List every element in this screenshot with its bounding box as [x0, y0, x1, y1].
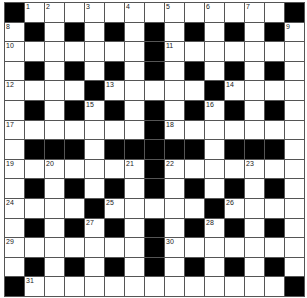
- white-cell[interactable]: [65, 199, 84, 218]
- white-cell[interactable]: [105, 160, 124, 179]
- white-cell[interactable]: [125, 42, 144, 61]
- white-cell[interactable]: [205, 238, 224, 257]
- white-cell[interactable]: [265, 81, 284, 100]
- white-cell[interactable]: 10: [5, 42, 24, 61]
- white-cell[interactable]: 7: [245, 3, 264, 22]
- white-cell[interactable]: [285, 140, 304, 159]
- white-cell[interactable]: 1: [25, 3, 44, 22]
- white-cell[interactable]: [65, 277, 84, 296]
- white-cell[interactable]: [25, 121, 44, 140]
- white-cell[interactable]: [245, 23, 264, 42]
- white-cell[interactable]: [145, 81, 164, 100]
- white-cell[interactable]: [105, 121, 124, 140]
- white-cell[interactable]: [245, 219, 264, 238]
- white-cell[interactable]: [265, 42, 284, 61]
- white-cell[interactable]: [205, 258, 224, 277]
- white-cell[interactable]: [5, 101, 24, 120]
- white-cell[interactable]: [45, 62, 64, 81]
- white-cell[interactable]: [285, 42, 304, 61]
- white-cell[interactable]: [285, 121, 304, 140]
- white-cell[interactable]: [285, 160, 304, 179]
- white-cell[interactable]: 9: [285, 23, 304, 42]
- white-cell[interactable]: [85, 179, 104, 198]
- white-cell[interactable]: 12: [5, 81, 24, 100]
- white-cell[interactable]: [205, 62, 224, 81]
- white-cell[interactable]: [5, 219, 24, 238]
- white-cell[interactable]: 26: [225, 199, 244, 218]
- white-cell[interactable]: [85, 160, 104, 179]
- white-cell[interactable]: [145, 277, 164, 296]
- white-cell[interactable]: [285, 199, 304, 218]
- white-cell[interactable]: [225, 121, 244, 140]
- white-cell[interactable]: [285, 258, 304, 277]
- white-cell[interactable]: [205, 42, 224, 61]
- white-cell[interactable]: [185, 42, 204, 61]
- white-cell[interactable]: [65, 81, 84, 100]
- white-cell[interactable]: [125, 23, 144, 42]
- white-cell[interactable]: [245, 81, 264, 100]
- white-cell[interactable]: [245, 101, 264, 120]
- white-cell[interactable]: [245, 277, 264, 296]
- white-cell[interactable]: [285, 101, 304, 120]
- white-cell[interactable]: [25, 199, 44, 218]
- white-cell[interactable]: [145, 3, 164, 22]
- white-cell[interactable]: [45, 101, 64, 120]
- white-cell[interactable]: [105, 277, 124, 296]
- white-cell[interactable]: [45, 42, 64, 61]
- white-cell[interactable]: [185, 160, 204, 179]
- white-cell[interactable]: [205, 140, 224, 159]
- white-cell[interactable]: 14: [225, 81, 244, 100]
- white-cell[interactable]: [185, 3, 204, 22]
- white-cell[interactable]: [125, 101, 144, 120]
- white-cell[interactable]: 30: [165, 238, 184, 257]
- white-cell[interactable]: [165, 101, 184, 120]
- white-cell[interactable]: [245, 179, 264, 198]
- white-cell[interactable]: [165, 219, 184, 238]
- white-cell[interactable]: [185, 277, 204, 296]
- white-cell[interactable]: [45, 199, 64, 218]
- white-cell[interactable]: 11: [165, 42, 184, 61]
- white-cell[interactable]: [205, 179, 224, 198]
- white-cell[interactable]: [245, 62, 264, 81]
- white-cell[interactable]: [85, 277, 104, 296]
- white-cell[interactable]: 13: [105, 81, 124, 100]
- white-cell[interactable]: [5, 179, 24, 198]
- white-cell[interactable]: [105, 3, 124, 22]
- white-cell[interactable]: [85, 62, 104, 81]
- white-cell[interactable]: 8: [5, 23, 24, 42]
- white-cell[interactable]: [265, 160, 284, 179]
- white-cell[interactable]: [165, 23, 184, 42]
- white-cell[interactable]: [285, 238, 304, 257]
- white-cell[interactable]: [5, 140, 24, 159]
- white-cell[interactable]: 4: [125, 3, 144, 22]
- white-cell[interactable]: 22: [165, 160, 184, 179]
- white-cell[interactable]: [165, 277, 184, 296]
- white-cell[interactable]: [245, 121, 264, 140]
- white-cell[interactable]: [45, 179, 64, 198]
- white-cell[interactable]: [5, 258, 24, 277]
- white-cell[interactable]: [285, 179, 304, 198]
- white-cell[interactable]: 31: [25, 277, 44, 296]
- white-cell[interactable]: [225, 42, 244, 61]
- white-cell[interactable]: [85, 121, 104, 140]
- white-cell[interactable]: 15: [85, 101, 104, 120]
- white-cell[interactable]: [185, 238, 204, 257]
- white-cell[interactable]: [25, 238, 44, 257]
- white-cell[interactable]: [285, 62, 304, 81]
- white-cell[interactable]: [45, 23, 64, 42]
- white-cell[interactable]: [265, 277, 284, 296]
- white-cell[interactable]: [165, 199, 184, 218]
- white-cell[interactable]: [245, 258, 264, 277]
- white-cell[interactable]: [185, 199, 204, 218]
- white-cell[interactable]: [5, 62, 24, 81]
- white-cell[interactable]: [265, 121, 284, 140]
- white-cell[interactable]: [205, 23, 224, 42]
- white-cell[interactable]: 5: [165, 3, 184, 22]
- white-cell[interactable]: [185, 121, 204, 140]
- white-cell[interactable]: [125, 277, 144, 296]
- white-cell[interactable]: [45, 81, 64, 100]
- white-cell[interactable]: 16: [205, 101, 224, 120]
- white-cell[interactable]: [125, 199, 144, 218]
- white-cell[interactable]: [45, 277, 64, 296]
- white-cell[interactable]: 20: [45, 160, 64, 179]
